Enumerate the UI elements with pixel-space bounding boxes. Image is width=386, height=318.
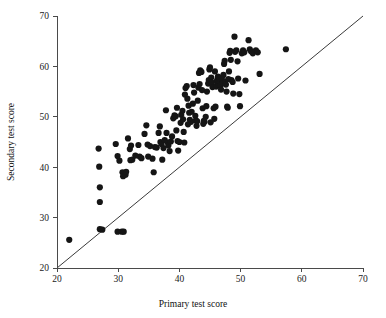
data-point xyxy=(196,70,202,76)
data-point xyxy=(125,135,131,141)
x-tick-label: 20 xyxy=(52,274,62,284)
data-point xyxy=(175,147,181,153)
y-tick-label: 20 xyxy=(40,263,50,273)
x-tick-label: 70 xyxy=(358,274,368,284)
data-point xyxy=(212,68,218,74)
data-point xyxy=(237,103,243,109)
y-tick-label: 70 xyxy=(40,11,50,21)
data-point xyxy=(163,130,169,136)
data-point xyxy=(159,157,165,163)
y-tick-label: 40 xyxy=(40,163,50,173)
data-point xyxy=(255,49,261,55)
data-point xyxy=(141,131,147,137)
data-point xyxy=(157,123,163,129)
data-point xyxy=(228,57,234,63)
data-points-group xyxy=(66,34,289,243)
data-point xyxy=(212,104,218,110)
data-point xyxy=(169,133,175,139)
x-axis-ticks: 203040506070 xyxy=(52,268,368,284)
data-point xyxy=(116,158,122,164)
data-point xyxy=(181,129,187,135)
data-point xyxy=(138,155,144,161)
data-point xyxy=(241,49,247,55)
data-point xyxy=(97,184,103,190)
data-point xyxy=(256,71,262,77)
data-point xyxy=(203,103,209,109)
data-point xyxy=(236,91,242,97)
data-point xyxy=(96,164,102,170)
data-point xyxy=(180,116,186,122)
data-point xyxy=(204,89,210,95)
data-point xyxy=(207,64,213,70)
data-point xyxy=(235,75,241,81)
y-axis-title: Secondary test score xyxy=(6,103,16,181)
x-tick-label: 50 xyxy=(236,274,246,284)
data-point xyxy=(220,72,226,78)
data-point xyxy=(151,169,157,175)
data-point xyxy=(167,148,173,154)
x-tick-label: 30 xyxy=(113,274,123,284)
data-point xyxy=(223,81,229,87)
data-point xyxy=(96,145,102,151)
data-point xyxy=(143,122,149,128)
y-tick-label: 50 xyxy=(40,112,50,122)
data-point xyxy=(179,108,185,114)
data-point xyxy=(173,127,179,133)
data-point xyxy=(283,46,289,52)
data-point xyxy=(231,34,237,40)
data-point xyxy=(193,123,199,129)
data-point xyxy=(155,130,161,136)
data-point xyxy=(121,229,127,235)
data-point xyxy=(66,237,72,243)
data-point xyxy=(97,199,103,205)
data-point xyxy=(163,107,169,113)
data-point xyxy=(203,114,209,120)
data-point xyxy=(223,89,229,95)
data-point xyxy=(191,90,197,96)
y-tick-label: 30 xyxy=(40,213,50,223)
data-point xyxy=(242,77,248,83)
data-point xyxy=(173,113,179,119)
x-tick-label: 40 xyxy=(175,274,185,284)
plot-canvas: 203040506070 203040506070 Primary test s… xyxy=(0,0,386,318)
x-axis-title: Primary test score xyxy=(159,299,228,309)
data-point xyxy=(184,83,190,89)
data-point xyxy=(230,91,236,97)
data-point xyxy=(245,37,251,43)
data-point xyxy=(181,139,187,145)
data-point xyxy=(99,227,105,233)
data-point xyxy=(132,153,138,159)
data-point xyxy=(234,58,240,64)
data-point xyxy=(135,142,141,148)
data-point xyxy=(200,121,206,127)
data-point xyxy=(218,86,224,92)
data-point xyxy=(185,121,191,127)
data-point xyxy=(230,79,236,85)
y-tick-label: 60 xyxy=(40,62,50,72)
data-point xyxy=(123,169,129,175)
data-point xyxy=(145,154,151,160)
data-point xyxy=(208,119,214,125)
data-point xyxy=(128,142,134,148)
data-point xyxy=(113,141,119,147)
data-point xyxy=(182,92,188,98)
data-point xyxy=(222,58,228,64)
data-point xyxy=(196,81,202,87)
data-point xyxy=(225,105,231,111)
data-point xyxy=(233,47,239,53)
data-point xyxy=(226,68,232,74)
data-point xyxy=(195,98,201,104)
x-tick-label: 60 xyxy=(297,274,307,284)
scatter-plot-figure: 203040506070 203040506070 Primary test s… xyxy=(0,0,386,318)
y-axis-ticks: 203040506070 xyxy=(40,11,58,273)
data-point xyxy=(174,105,180,111)
